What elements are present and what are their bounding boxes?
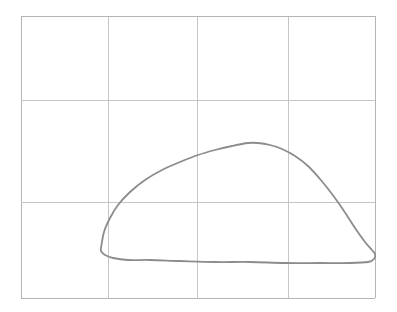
plot-canvas [0, 0, 397, 312]
figure-root [0, 0, 397, 312]
plot-background [0, 0, 397, 312]
